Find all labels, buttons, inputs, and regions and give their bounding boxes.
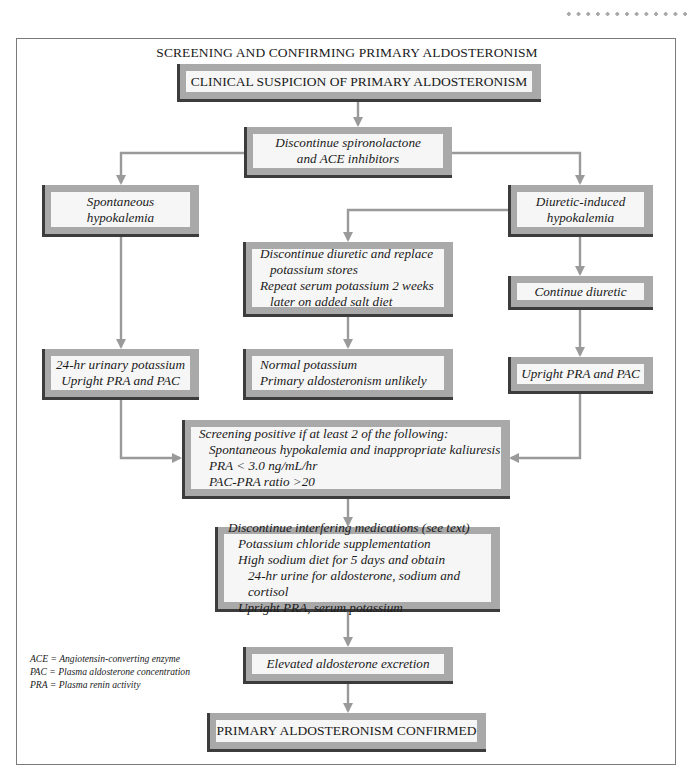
node-text: Discontinue diuretic and replace <box>260 246 433 262</box>
arrow-to-diuretic-induced <box>451 153 580 183</box>
node-text: PAC-PRA ratio >20 <box>199 474 315 490</box>
legend-item: PAC = Plasma aldosterone concentration <box>30 665 190 678</box>
node-clinical-suspicion: CLINICAL SUSPICION OF PRIMARY ALDOSTERON… <box>177 64 541 102</box>
node-discontinue-interfering: Discontinue interfering medications (see… <box>215 527 500 612</box>
legend-item: ACE = Angiotensin-converting enzyme <box>30 652 190 665</box>
node-text: CLINICAL SUSPICION OF PRIMARY ALDOSTERON… <box>191 74 528 90</box>
node-text: 24-hr urinary potassium <box>56 357 185 373</box>
node-text: and ACE inhibitors <box>297 151 399 167</box>
node-normal-potassium: Normal potassium Primary aldosteronism u… <box>243 349 453 400</box>
node-continue-diuretic: Continue diuretic <box>508 276 653 310</box>
node-text: Primary aldosteronism unlikely <box>260 373 427 389</box>
node-text: Screening positive if at least 2 of the … <box>199 426 448 442</box>
node-text: High sodium diet for 5 days and obtain <box>228 552 445 568</box>
node-text: Upright PRA and PAC <box>61 373 180 389</box>
arrow-to-discontinue-diuretic <box>348 210 508 240</box>
node-text: Elevated aldosterone excretion <box>266 656 429 672</box>
arrow-upright-to-screening <box>511 393 580 458</box>
node-urinary-potassium: 24-hr urinary potassium Upright PRA and … <box>42 349 199 400</box>
node-text: hypokalemia <box>87 210 154 226</box>
node-text: Diuretic-induced <box>536 194 626 210</box>
node-elevated-aldosterone: Elevated aldosterone excretion <box>243 647 453 684</box>
node-text: later on added salt diet <box>260 294 392 310</box>
abbreviation-legend: ACE = Angiotensin-converting enzyme PAC … <box>30 652 190 691</box>
node-text: 24-hr urine for aldosterone, sodium and … <box>228 568 491 600</box>
node-text: Spontaneous <box>87 194 154 210</box>
node-spontaneous-hypokalemia: Spontaneous hypokalemia <box>42 185 199 237</box>
node-text: Continue diuretic <box>534 284 626 300</box>
node-text: Discontinue interfering medications (see… <box>228 520 470 536</box>
node-upright-pra-pac: Upright PRA and PAC <box>508 357 653 394</box>
arrow-urinary-to-screening <box>121 399 180 458</box>
node-text: Upright PRA and PAC <box>521 366 640 382</box>
node-text: Repeat serum potassium 2 weeks <box>260 278 434 294</box>
node-screening-positive: Screening positive if at least 2 of the … <box>182 420 510 499</box>
node-text: PRIMARY ALDOSTERONISM CONFIRMED <box>217 723 477 739</box>
node-confirmed: PRIMARY ALDOSTERONISM CONFIRMED <box>207 713 486 752</box>
legend-item: PRA = Plasma renin activity <box>30 678 190 691</box>
node-text: Spontaneous hypokalemia and inappropriat… <box>199 442 500 458</box>
node-text: Potassium chloride supplementation <box>228 536 431 552</box>
node-discontinue-diuretic: Discontinue diuretic and replace potassi… <box>243 242 453 317</box>
node-diuretic-induced-hypokalemia: Diuretic-induced hypokalemia <box>508 185 653 237</box>
node-text: Discontinue spironolactone <box>275 135 421 151</box>
node-text: Normal potassium <box>260 357 357 373</box>
node-text: potassium stores <box>260 262 358 278</box>
node-text: Upright PRA, serum potassium <box>228 600 403 616</box>
node-discontinue-spironolactone: Discontinue spironolactone and ACE inhib… <box>244 127 452 178</box>
node-text: PRA < 3.0 ng/mL/hr <box>199 458 317 474</box>
arrow-to-spontaneous <box>121 153 244 183</box>
node-text: hypokalemia <box>547 210 614 226</box>
